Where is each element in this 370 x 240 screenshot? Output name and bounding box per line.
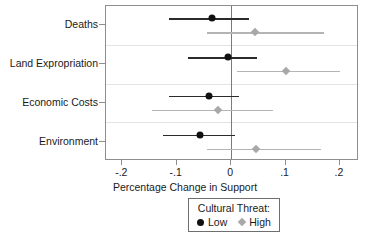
confidence-interval-bar [169, 96, 240, 98]
data-point-marker [281, 67, 289, 75]
legend: Cultural Threat: Low High [188, 198, 280, 232]
legend-entry-high: High [239, 216, 271, 228]
y-axis-tick [99, 24, 105, 25]
data-point-marker [213, 106, 221, 114]
y-axis-tick [99, 63, 105, 64]
y-axis-tick-label: Environment [39, 135, 98, 146]
x-axis-tick [230, 160, 231, 165]
x-axis-tick-label: -.2 [115, 166, 127, 178]
y-axis-tick-label: Deaths [65, 19, 98, 30]
x-axis-tick-label: 0 [227, 166, 233, 178]
y-axis-tick [99, 141, 105, 142]
plot-area [105, 5, 358, 160]
x-axis-tick [285, 160, 286, 165]
data-point-marker [251, 144, 259, 152]
legend-entries: Low High [197, 216, 271, 228]
confidence-interval-bar [152, 110, 273, 111]
y-axis-tick-label: Land Expropriation [10, 58, 98, 69]
legend-entry-low: Low [197, 216, 227, 228]
confidence-interval-bar [207, 32, 323, 33]
diamond-marker-icon [238, 218, 246, 226]
legend-label-high: High [249, 216, 271, 228]
confidence-interval-bar [207, 149, 321, 150]
data-point-marker [206, 92, 213, 99]
data-point-marker [250, 28, 258, 36]
confidence-interval-bar [188, 57, 258, 59]
data-point-marker [209, 15, 216, 22]
data-point-marker [225, 54, 232, 61]
legend-label-low: Low [208, 216, 227, 228]
x-axis-tick [121, 160, 122, 165]
circle-marker-icon [197, 219, 204, 226]
x-axis-title: Percentage Change in Support [0, 181, 370, 193]
legend-title: Cultural Threat: [197, 202, 271, 214]
x-axis-tick-label: -.1 [170, 166, 182, 178]
coefficient-plot-figure: DeathsLand ExpropriationEconomic CostsEn… [0, 0, 370, 240]
x-axis-tick [176, 160, 177, 165]
x-axis-tick [339, 160, 340, 165]
x-axis-tick-label: .1 [280, 166, 289, 178]
x-axis-tick-label: .2 [335, 166, 344, 178]
data-point-marker [197, 131, 204, 138]
y-axis-tick-label: Economic Costs [22, 96, 98, 107]
y-axis-tick [99, 102, 105, 103]
